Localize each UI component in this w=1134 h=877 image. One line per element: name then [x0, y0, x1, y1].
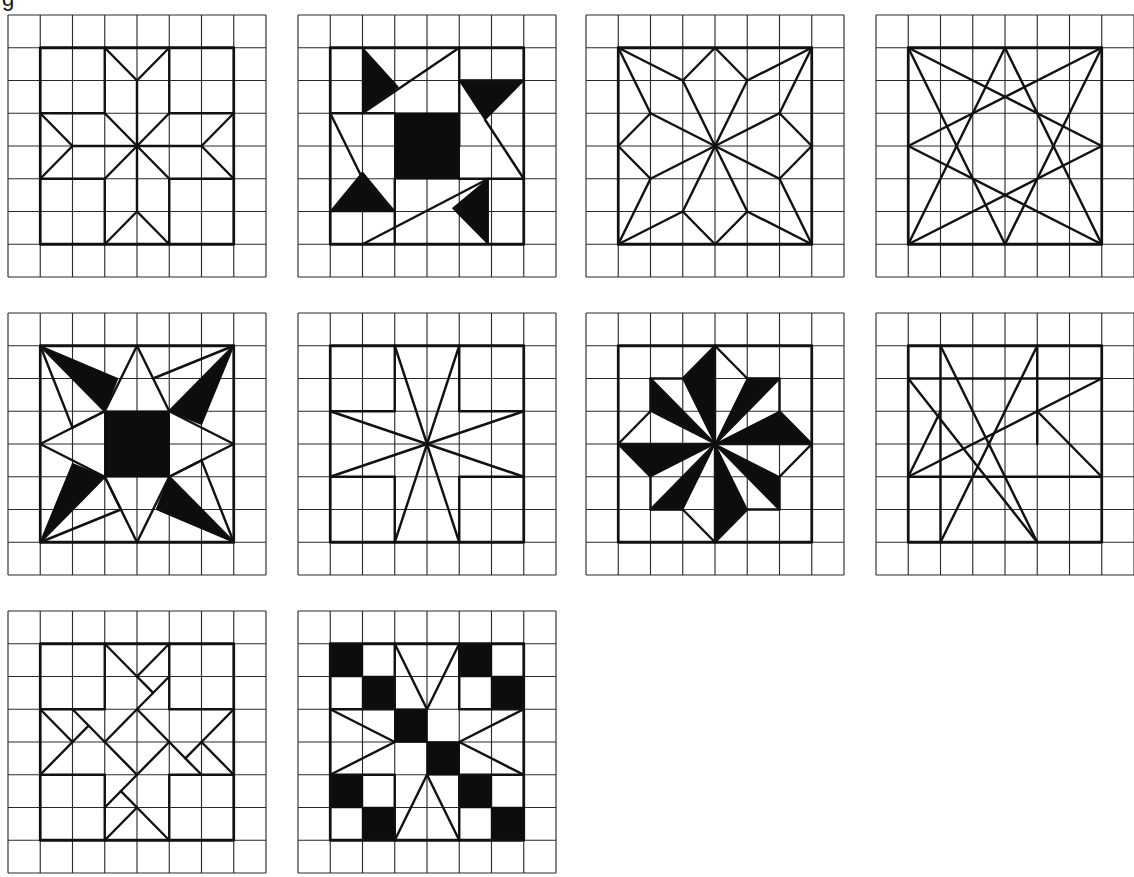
- shaded-piece: [459, 81, 524, 120]
- shaded-piece: [363, 677, 395, 710]
- figure-caption-partial: g: [2, 0, 14, 12]
- shaded-piece: [363, 808, 395, 841]
- quilt-block-2: [298, 15, 556, 277]
- pattern-line: [485, 120, 524, 179]
- quilt-block-drawing: [8, 313, 266, 575]
- pattern-lines: [618, 346, 812, 543]
- shaded-piece: [492, 808, 524, 841]
- quilt-block-6: [298, 313, 556, 575]
- quilt-block-drawing: [876, 313, 1134, 575]
- graph-paper-grid: [8, 611, 266, 873]
- shaded-piece: [395, 709, 427, 742]
- quilt-block-8: [876, 313, 1134, 575]
- shaded-piece: [363, 48, 398, 114]
- quilt-block-drawing: [586, 313, 844, 575]
- quilt-block-drawing: [8, 15, 266, 277]
- pattern-line: [202, 742, 234, 775]
- quilt-block-10: [298, 611, 556, 873]
- quilt-block-drawing: [298, 611, 556, 873]
- shaded-piece: [492, 677, 524, 710]
- quilt-block-5: [8, 313, 266, 575]
- shaded-piece: [459, 644, 491, 677]
- pattern-line: [105, 644, 137, 677]
- quilt-block-drawing: [8, 611, 266, 873]
- pattern-line: [169, 460, 201, 476]
- quilt-block-9: [8, 611, 266, 873]
- shaded-piece: [459, 775, 491, 808]
- quilt-block-drawing: [876, 15, 1134, 277]
- quilt-block-1: [8, 15, 266, 277]
- pattern-line: [137, 709, 169, 742]
- pattern-line: [40, 709, 72, 742]
- shaded-piece: [105, 411, 170, 477]
- quilt-block-3: [586, 15, 844, 277]
- shaded-piece: [330, 644, 362, 677]
- graph-paper-grid: [876, 313, 1134, 575]
- pattern-line: [202, 709, 234, 742]
- shaded-piece: [427, 742, 459, 775]
- pattern-line: [121, 791, 137, 807]
- quilt-block-drawing: [586, 15, 844, 277]
- pattern-line: [137, 677, 153, 693]
- shaded-piece: [395, 113, 460, 179]
- pattern-line: [40, 742, 72, 775]
- quilt-block-4: [876, 15, 1134, 277]
- quilt-block-7: [586, 313, 844, 575]
- pattern-line: [137, 808, 169, 841]
- shaded-piece: [330, 775, 362, 808]
- graph-paper-grid: [876, 15, 1134, 277]
- pattern-line: [137, 742, 169, 775]
- pattern-line: [105, 808, 137, 841]
- pattern-line: [105, 742, 137, 775]
- quilt-block-drawing: [298, 313, 556, 575]
- pattern-line: [73, 726, 89, 742]
- pattern-line: [185, 742, 201, 758]
- quilt-block-drawing: [298, 15, 556, 277]
- pattern-line: [137, 644, 169, 677]
